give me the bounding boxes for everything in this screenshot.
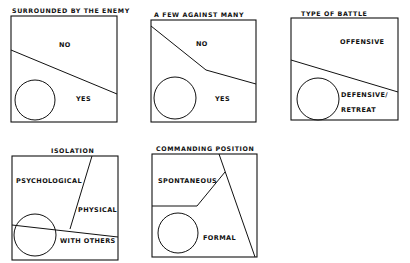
region-label-yes: YES [75,95,91,103]
panel-title: TYPE OF BATTLE [301,10,367,17]
panel-title: COMMANDING POSITION [156,145,254,152]
region-label-retreat: RETREAT [341,106,376,114]
divider-line [291,60,398,92]
region-label-defensive: DEFENSIVE/ [341,91,388,99]
panel-type-of-battle: TYPE OF BATTLE OFFENSIVE DEFENSIVE/ RETR… [291,10,398,120]
divider-line-diagonal [70,156,92,229]
panel-surrounded-by-enemy: SURROUNDED BY THE ENEMY NO YES [11,7,130,122]
panel-isolation: ISOLATION PSYCHOLOGICAL PHYSICAL WITH OT… [12,147,118,260]
panel-frame [151,20,256,122]
region-label-offensive: OFFENSIVE [340,38,384,46]
circle-marker [154,77,196,119]
panel-title: ISOLATION [51,147,94,154]
circle-marker [297,78,339,120]
region-label-with-others: WITH OTHERS [60,237,116,245]
panel-title: SURROUNDED BY THE ENEMY [12,7,130,14]
circle-marker [158,213,198,253]
panel-commanding-position: COMMANDING POSITION SPONTANEOUS FORMAL [152,145,257,257]
divider-line [11,50,117,94]
region-label-no: NO [59,41,71,49]
circle-marker [14,214,56,256]
panel-frame [11,16,117,122]
panel-frame [291,18,398,120]
region-label-formal: FORMAL [203,234,236,242]
divider-line-horizontal [12,225,118,237]
diagram-canvas: SURROUNDED BY THE ENEMY NO YES A FEW AGA… [0,0,410,263]
region-label-yes: YES [214,95,230,103]
region-label-no: NO [196,40,208,48]
panel-few-against-many: A FEW AGAINST MANY NO YES [151,11,256,122]
panel-title: A FEW AGAINST MANY [154,11,244,18]
divider-line [151,26,256,84]
region-label-physical: PHYSICAL [78,206,117,214]
region-label-spontaneous: SPONTANEOUS [158,177,217,185]
region-label-psychological: PSYCHOLOGICAL [16,177,82,185]
circle-marker [15,80,55,120]
